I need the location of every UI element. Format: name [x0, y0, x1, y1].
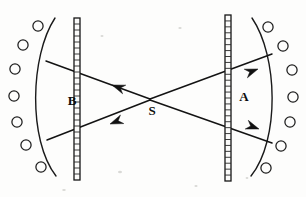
detector-circle: [18, 40, 28, 50]
left-screen-arc: [36, 18, 56, 176]
paper-speck: [178, 27, 181, 29]
ray-lower-left-arrowhead: [110, 115, 124, 124]
detector-circle: [288, 92, 298, 102]
detector-circle: [287, 65, 297, 75]
detector-circle: [261, 163, 271, 173]
detector-circle: [12, 117, 22, 127]
paper-speck: [194, 185, 197, 187]
paper-speck: [246, 177, 249, 179]
label-right-focus: A: [239, 89, 249, 104]
left-detector-array: [9, 21, 46, 172]
ray-upper-left: [46, 61, 150, 99]
ray-diagram-canvas: S B A: [0, 0, 306, 197]
paper-speck: [118, 171, 122, 173]
detector-circle: [285, 117, 295, 127]
ray-upper-right-arrowhead: [244, 69, 258, 78]
ray-upper-right: [150, 54, 272, 99]
ray-lower-right-arrowhead: [245, 120, 259, 129]
detector-circle: [10, 64, 20, 74]
left-screen-group: [9, 18, 56, 176]
detector-circle: [33, 21, 43, 31]
ray-diagram-figure: S B A: [0, 0, 306, 197]
detector-circle: [263, 22, 273, 32]
ray-lower-left: [47, 100, 150, 140]
label-source: S: [148, 103, 155, 118]
label-left-focus: B: [68, 93, 77, 108]
detector-circle: [278, 41, 288, 51]
detector-circle: [21, 140, 31, 150]
paper-speck: [101, 35, 104, 37]
ray-lower-right: [150, 100, 272, 143]
right-screen-group: [251, 18, 298, 176]
paper-speck: [62, 189, 66, 191]
right-screen-arc: [251, 18, 272, 176]
detector-circle: [36, 162, 46, 172]
detector-circle: [276, 141, 286, 151]
right-barrier: [225, 15, 231, 181]
detector-circle: [9, 91, 19, 101]
right-detector-array: [261, 22, 298, 173]
